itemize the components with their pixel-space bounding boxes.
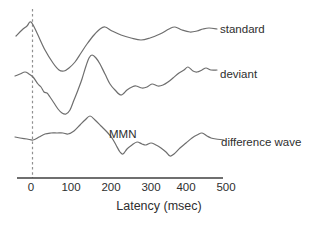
x-tick-300: 300 (141, 182, 160, 193)
x-tick-0: 0 (28, 182, 34, 193)
trace-label-standard: standard (220, 24, 265, 35)
trace-standard (16, 22, 217, 71)
x-tick-500: 500 (216, 182, 235, 193)
trace-label-deviant: deviant (220, 69, 257, 80)
x-tick-200: 200 (101, 182, 120, 193)
x-axis-title: Latency (msec) (116, 200, 201, 213)
mmn-annotation: MMN (109, 129, 136, 140)
x-tick-400: 400 (176, 182, 195, 193)
mmn-erp-figure: standard deviant difference wave MMN 010… (0, 0, 313, 226)
trace-label-difference-wave: difference wave (221, 137, 301, 148)
trace-deviant (15, 55, 217, 114)
x-tick-100: 100 (61, 182, 80, 193)
